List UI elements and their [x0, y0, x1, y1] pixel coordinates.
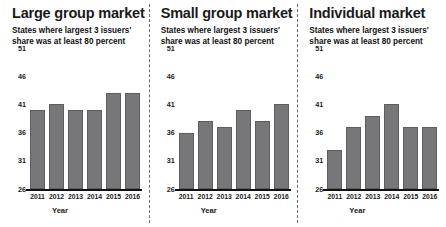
x-tick-label: 2014	[382, 193, 401, 200]
bar-slot	[234, 48, 253, 189]
y-tick-label: 46	[167, 73, 175, 80]
bar-slot	[123, 48, 142, 189]
bar-slot	[47, 48, 66, 189]
y-tick-label: 26	[18, 186, 26, 193]
multi-panel-bar-chart: Large group market States where largest …	[0, 0, 446, 227]
y-axis-ticks: 263136414651	[12, 48, 26, 195]
bar	[365, 116, 380, 189]
x-tick-label: 2011	[177, 193, 196, 200]
x-axis-ticks: 201120122013201420152016	[28, 193, 142, 200]
bar-slot	[420, 48, 439, 189]
x-axis-ticks: 201120122013201420152016	[177, 193, 291, 200]
panel-subtitle: States where largest 3 issuers' share wa…	[309, 26, 445, 47]
x-tick-label: 2016	[420, 193, 439, 200]
x-axis-label: Year	[201, 206, 217, 215]
bar	[403, 127, 418, 189]
x-tick-label: 2012	[196, 193, 215, 200]
bar-slot	[272, 48, 291, 189]
x-axis-label: Year	[349, 206, 365, 215]
bar-slot	[344, 48, 363, 189]
x-tick-label: 2014	[234, 193, 253, 200]
bar-slot	[196, 48, 215, 189]
y-tick-label: 31	[18, 157, 26, 164]
x-tick-label: 2015	[253, 193, 272, 200]
x-axis-label: Year	[52, 206, 68, 215]
panel-subtitle: States where largest 3 issuers' share wa…	[161, 26, 297, 47]
x-axis-line	[323, 189, 439, 191]
y-tick-label: 26	[315, 186, 323, 193]
bar	[422, 127, 437, 189]
x-tick-label: 2016	[123, 193, 142, 200]
bar	[125, 93, 140, 189]
y-tick-label: 46	[315, 73, 323, 80]
plot-area: 263136414651 201120122013201420152016 Ye…	[12, 48, 142, 195]
y-tick-label: 31	[315, 157, 323, 164]
plot-area: 263136414651 201120122013201420152016 Ye…	[161, 48, 291, 195]
bar	[106, 93, 121, 189]
bar	[198, 121, 213, 189]
panel-large-group-market: Large group market States where largest …	[0, 0, 149, 227]
panel-individual-market: Individual market States where largest 3…	[297, 0, 446, 227]
bar	[346, 127, 361, 189]
panel-title: Large group market	[12, 5, 145, 21]
y-tick-label: 41	[18, 101, 26, 108]
bar-slot	[253, 48, 272, 189]
bar	[274, 104, 289, 189]
y-tick-label: 36	[18, 129, 26, 136]
x-axis-line	[26, 189, 142, 191]
x-axis-line	[175, 189, 291, 191]
y-axis-ticks: 263136414651	[309, 48, 323, 195]
panel-small-group-market: Small group market States where largest …	[149, 0, 298, 227]
x-tick-label: 2014	[85, 193, 104, 200]
bar-slot	[363, 48, 382, 189]
y-tick-label: 26	[167, 186, 175, 193]
y-tick-label: 36	[315, 129, 323, 136]
bar	[179, 133, 194, 189]
x-axis-ticks: 201120122013201420152016	[325, 193, 439, 200]
bar-slot	[104, 48, 123, 189]
bar	[68, 110, 83, 189]
x-tick-label: 2013	[363, 193, 382, 200]
bar-slot	[177, 48, 196, 189]
bar-slot	[325, 48, 344, 189]
x-tick-label: 2015	[401, 193, 420, 200]
y-tick-label: 46	[18, 73, 26, 80]
x-tick-label: 2013	[66, 193, 85, 200]
bar	[327, 150, 342, 189]
bar	[87, 110, 102, 189]
x-tick-label: 2013	[215, 193, 234, 200]
bar-series	[177, 48, 291, 189]
y-tick-label: 41	[167, 101, 175, 108]
bar-slot	[28, 48, 47, 189]
bar	[30, 110, 45, 189]
y-axis-ticks: 263136414651	[161, 48, 175, 195]
bar-slot	[401, 48, 420, 189]
x-tick-label: 2016	[272, 193, 291, 200]
bar-slot	[85, 48, 104, 189]
x-tick-label: 2015	[104, 193, 123, 200]
panel-title: Individual market	[309, 5, 425, 21]
y-tick-label: 31	[167, 157, 175, 164]
panel-title: Small group market	[161, 5, 293, 21]
bar-slot	[382, 48, 401, 189]
y-tick-label: 51	[315, 45, 323, 52]
bar-slot	[66, 48, 85, 189]
y-tick-label: 41	[315, 101, 323, 108]
bar	[236, 110, 251, 189]
x-tick-label: 2011	[28, 193, 47, 200]
x-tick-label: 2012	[344, 193, 363, 200]
x-tick-label: 2011	[325, 193, 344, 200]
bar	[384, 104, 399, 189]
y-tick-label: 51	[167, 45, 175, 52]
bar	[255, 121, 270, 189]
bar	[217, 127, 232, 189]
y-tick-label: 51	[18, 45, 26, 52]
plot-area: 263136414651 201120122013201420152016 Ye…	[309, 48, 439, 195]
panel-subtitle: States where largest 3 issuers' share wa…	[12, 26, 148, 47]
bar-series	[28, 48, 142, 189]
y-tick-label: 36	[167, 129, 175, 136]
bar-series	[325, 48, 439, 189]
bar-slot	[215, 48, 234, 189]
bar	[49, 104, 64, 189]
x-tick-label: 2012	[47, 193, 66, 200]
